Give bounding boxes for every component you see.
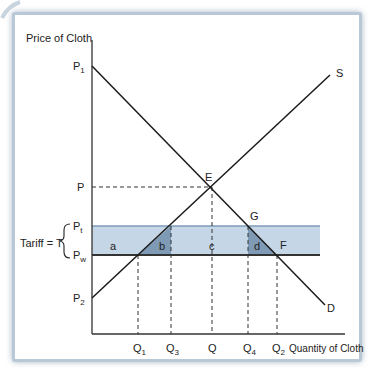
corner-decoration bbox=[2, 2, 20, 18]
point-e-label: E bbox=[205, 171, 212, 183]
label-p1: P1 bbox=[73, 60, 85, 75]
tariff-brace-icon bbox=[60, 224, 70, 258]
tariff-label: Tariff = T bbox=[20, 237, 63, 249]
label-pt: Pt bbox=[73, 220, 83, 235]
label-p: P bbox=[77, 181, 84, 193]
demand-label: D bbox=[327, 302, 335, 314]
tariff-diagram: Price of Cloth P1 P Pt Pw P2 Tariff = T … bbox=[0, 0, 374, 369]
x-axis-label: Quantity of Cloth bbox=[289, 343, 363, 354]
area-a-label: a bbox=[110, 240, 117, 252]
label-p2: P2 bbox=[73, 292, 85, 307]
supply-label: S bbox=[336, 67, 343, 79]
label-pw: Pw bbox=[73, 249, 86, 264]
point-f-label: F bbox=[280, 239, 287, 251]
label-q4: Q4 bbox=[243, 342, 257, 357]
label-q1: Q1 bbox=[133, 342, 147, 357]
label-q2: Q2 bbox=[272, 342, 286, 357]
label-q: Q bbox=[208, 342, 217, 354]
area-b-label: b bbox=[159, 240, 165, 252]
label-q3: Q3 bbox=[166, 342, 180, 357]
area-c-label: c bbox=[209, 240, 215, 252]
point-g-label: G bbox=[250, 210, 259, 222]
y-axis-label: Price of Cloth bbox=[26, 32, 92, 44]
demand-curve bbox=[92, 66, 325, 305]
area-d-label: d bbox=[254, 240, 260, 252]
